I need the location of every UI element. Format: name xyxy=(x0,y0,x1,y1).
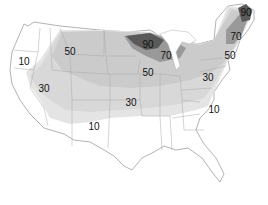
contour-label: 50 xyxy=(142,68,153,78)
contour-label: 50 xyxy=(224,51,235,61)
us-contour-map: 90 90 70 70 50 50 50 30 10 30 30 10 10 xyxy=(0,0,268,205)
contour-label: 30 xyxy=(38,84,49,94)
contour-label: 10 xyxy=(18,57,29,67)
contour-label: 70 xyxy=(230,32,241,42)
contour-label: 90 xyxy=(240,8,251,18)
contour-label: 10 xyxy=(88,122,99,132)
contour-label: 30 xyxy=(202,73,213,83)
contour-label: 50 xyxy=(64,47,75,57)
contour-label: 90 xyxy=(142,40,153,50)
contour-label: 70 xyxy=(160,51,171,61)
contour-label: 30 xyxy=(125,98,136,108)
contour-label: 10 xyxy=(208,105,219,115)
